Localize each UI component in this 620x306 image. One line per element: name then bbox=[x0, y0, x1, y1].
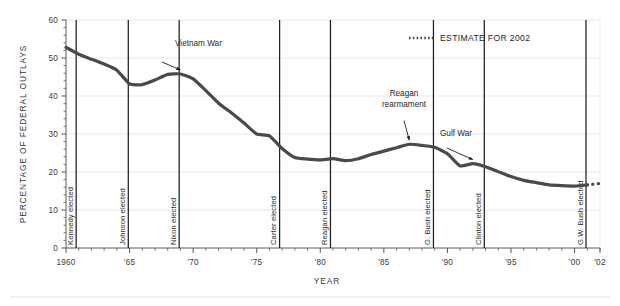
event-label-johnson-elected: Johnson elected bbox=[118, 188, 127, 245]
x-tick-label: '95 bbox=[505, 258, 517, 267]
y-tick-label: 30 bbox=[48, 130, 58, 139]
x-tick-label: 1960 bbox=[56, 258, 75, 267]
event-label-clinton-elected: Clinton elected bbox=[474, 193, 483, 245]
x-tick-label: '75 bbox=[251, 258, 263, 267]
event-label-reagan-elected: Reagan elected bbox=[320, 190, 329, 245]
y-tick-label: 0 bbox=[53, 244, 58, 253]
annotation-label-gulf-war: Gulf War bbox=[440, 129, 472, 138]
event-label-g-bush-elected: G. Bush elected bbox=[423, 189, 432, 245]
x-tick-label: '85 bbox=[378, 258, 390, 267]
y-tick-label: 50 bbox=[48, 54, 58, 63]
x-tick-label: '65 bbox=[124, 258, 136, 267]
x-tick-label: '00 bbox=[569, 258, 581, 267]
event-label-kennedy-elected: Kennedy elected bbox=[66, 187, 75, 245]
x-tick-label: '70 bbox=[188, 258, 200, 267]
event-label-g-w-bush-elected: G.W. Bush elected bbox=[576, 180, 585, 245]
y-axis-title: PERCENTAGE OF FEDERAL OUTLAYS bbox=[18, 45, 28, 224]
legend-label-estimate: ESTIMATE FOR 2002 bbox=[440, 33, 530, 43]
x-tick-label: '80 bbox=[315, 258, 327, 267]
y-tick-label: 20 bbox=[48, 168, 58, 177]
x-axis-title: YEAR bbox=[314, 276, 340, 286]
y-tick-label: 10 bbox=[48, 206, 58, 215]
y-tick-label: 40 bbox=[48, 92, 58, 101]
event-label-nixon-elected: Nixon elected bbox=[169, 198, 178, 245]
chart-background bbox=[0, 0, 620, 306]
event-label-carter-elected: Carter elected bbox=[269, 196, 278, 245]
x-tick-label: '90 bbox=[442, 258, 454, 267]
x-tick-label: '02 bbox=[594, 258, 606, 267]
y-tick-label: 60 bbox=[48, 16, 58, 25]
annotation-label-vietnam-war: Vietnam War bbox=[175, 39, 222, 48]
federal-outlays-line-chart: 0102030405060 1960'65'70'75'80'85'90'95'… bbox=[0, 0, 620, 306]
chart-figure: 0102030405060 1960'65'70'75'80'85'90'95'… bbox=[0, 0, 620, 306]
